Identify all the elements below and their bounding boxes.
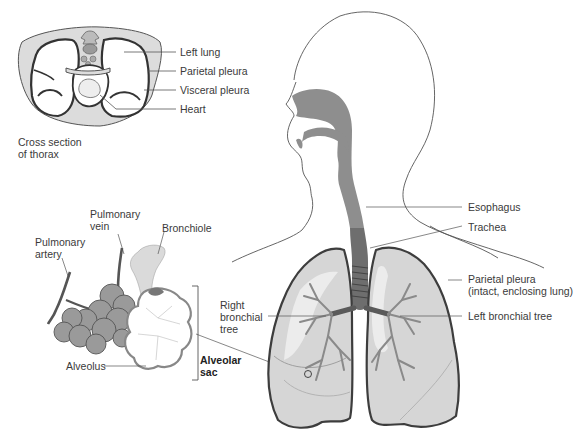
label-right-bronchial-2: bronchial — [220, 311, 263, 324]
upper-airway — [292, 89, 364, 228]
label-trachea: Trachea — [468, 221, 506, 234]
label-parietal-pleura: Parietal pleura — [180, 65, 248, 78]
label-bronchiole: Bronchiole — [162, 222, 212, 235]
label-esophagus: Esophagus — [468, 201, 521, 214]
alveoli-panel — [48, 232, 306, 380]
label-left-lung: Left lung — [180, 46, 220, 59]
label-alveolar-sac-1: Alveolar — [200, 354, 241, 367]
caption-cross-section: Cross section — [18, 136, 82, 149]
alveolar-sac-bracket — [192, 286, 198, 380]
caption-of-thorax: of thorax — [18, 148, 59, 161]
right-lung — [268, 249, 352, 428]
right-lung-section — [31, 40, 79, 116]
label-heart: Heart — [180, 103, 206, 116]
label-pulmonary-artery-2: artery — [35, 248, 62, 261]
label-right-bronchial-3: tree — [220, 323, 238, 336]
thorax-cross-section — [18, 27, 176, 126]
label-parietal-pleura-1: Parietal pleura — [468, 273, 536, 286]
label-right-bronchial-1: Right — [220, 299, 245, 312]
label-pulmonary-artery-1: Pulmonary — [35, 236, 85, 249]
label-visceral-pleura: Visceral pleura — [180, 84, 249, 97]
alveolar-sac-shape — [125, 288, 191, 369]
alveoli-cluster — [54, 284, 135, 354]
label-pulmonary-vein-2: vein — [90, 220, 109, 233]
label-alveolus: Alveolus — [66, 360, 106, 373]
label-alveolar-sac-2: sac — [200, 366, 218, 379]
label-parietal-pleura-2: (intact, enclosing lung) — [468, 285, 573, 298]
lungs — [268, 207, 462, 428]
label-pulmonary-vein-1: Pulmonary — [90, 208, 140, 221]
label-left-bronchial-tree: Left bronchial tree — [468, 310, 552, 323]
